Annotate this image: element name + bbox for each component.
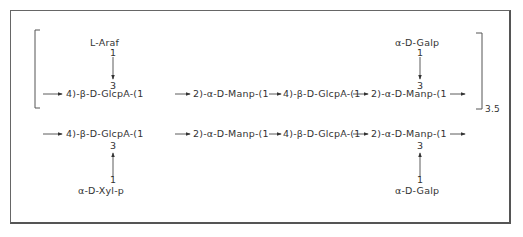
linkage-position-3: 3 <box>417 140 423 151</box>
repeat-count: 3.5 <box>485 104 500 115</box>
residue-manp: 2)-α-D-Manp-(1 <box>193 88 269 99</box>
residue-manp: 2)-α-D-Manp-(1 <box>371 88 447 99</box>
branch-label-gal: α-D-Galp <box>395 185 439 196</box>
left-bracket <box>35 30 40 108</box>
linkage-position-3: 3 <box>110 140 116 151</box>
residue-manp: 2)-α-D-Manp-(1 <box>193 128 269 139</box>
connector-lines <box>0 0 523 237</box>
linkage-position-1: 1 <box>417 174 423 185</box>
linkage-position-1: 1 <box>417 47 423 58</box>
right-bracket <box>476 33 482 109</box>
residue-glcpa: 4)-β-D-GlcpA-(1 <box>66 128 143 139</box>
residue-glcpa: 4)-β-D-GlcpA-(1 <box>283 88 360 99</box>
linkage-position-1: 1 <box>110 174 116 185</box>
residue-glcpa: 4)-β-D-GlcpA-(1 <box>283 128 360 139</box>
residue-manp: 2)-α-D-Manp-(1 <box>371 128 447 139</box>
residue-glcpa: 4)-β-D-GlcpA-(1 <box>66 88 143 99</box>
branch-label-xyl: α-D-Xyl-p <box>78 185 124 196</box>
linkage-position-1: 1 <box>110 47 116 58</box>
